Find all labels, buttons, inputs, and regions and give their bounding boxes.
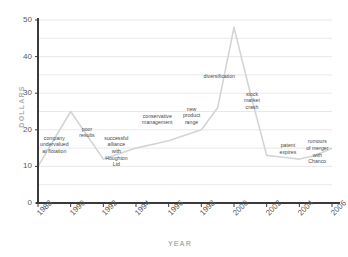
y-tick-label: 40 (10, 52, 32, 61)
annotation-successful-alliance: successful alliance with Houghton Ltd (99, 135, 133, 168)
annotation-new-product-range: new product range (175, 106, 209, 126)
gridlines (38, 20, 332, 185)
y-tick-label: 20 (10, 125, 32, 134)
annotation-stock-market-crash: stock market crash (235, 91, 269, 111)
y-tick-label: 0 (10, 198, 32, 207)
y-tick-label: 10 (10, 161, 32, 170)
annotation-company-undervalued: company undervalued at flotation (37, 135, 71, 155)
annotation-rumours-of-merger: rumours of merger with Chanco (300, 138, 334, 164)
y-tick-label: 30 (10, 88, 32, 97)
annotation-conservative-management: conservative management (140, 113, 174, 126)
annotation-diversification: diversification (202, 73, 236, 80)
y-tick-label: 50 (10, 15, 32, 24)
x-axis-title: YEAR (150, 240, 210, 247)
